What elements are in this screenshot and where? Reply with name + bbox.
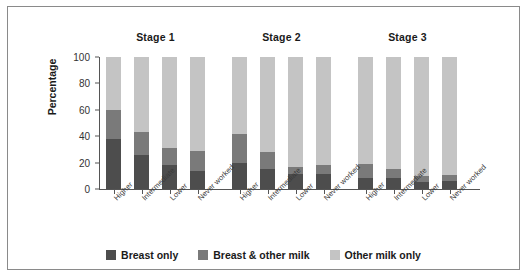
bar-segment-other-milk-only [162,57,177,148]
bar[interactable] [386,57,401,189]
bar-segment-breast-only [106,139,121,189]
bar-segment-breast-and-other-milk [106,110,121,139]
legend-label: Breast & other milk [213,249,309,261]
y-tick-label: 100 [64,52,90,63]
bar-segment-breast-and-other-milk [358,164,373,179]
legend-item[interactable]: Other milk only [330,249,421,261]
bar-segment-breast-and-other-milk [260,152,275,169]
legend-label: Breast only [121,249,178,261]
bar[interactable] [260,57,275,189]
bar-segment-other-milk-only [386,57,401,169]
bar-segment-breast-and-other-milk [386,169,401,178]
legend-swatch-icon [330,250,340,260]
bar-segment-other-milk-only [358,57,373,164]
bar-segment-other-milk-only [232,57,247,134]
y-tick-label: 40 [64,131,90,142]
y-tick-label: 0 [64,184,90,195]
bar-segment-breast-and-other-milk [162,148,177,165]
group-title-stage-2: Stage 2 [262,31,301,43]
legend-label: Other milk only [345,249,421,261]
bar-segment-breast-only [316,174,331,189]
bar[interactable] [134,57,149,189]
bar-segment-other-milk-only [134,57,149,132]
bar-segment-other-milk-only [316,57,331,165]
legend-swatch-icon [198,250,208,260]
bar-segment-other-milk-only [442,57,457,174]
bar[interactable] [442,57,457,189]
bar-segment-breast-and-other-milk [316,165,331,174]
y-tick-label: 20 [64,157,90,168]
bar-segment-breast-and-other-milk [190,151,205,171]
bar-segment-breast-only [190,171,205,189]
bar-segment-breast-and-other-milk [442,175,457,182]
legend-item[interactable]: Breast only [106,249,178,261]
bar[interactable] [106,57,121,189]
bar-segment-breast-only [134,155,149,189]
bar-segment-breast-and-other-milk [134,132,149,154]
legend-item[interactable]: Breast & other milk [198,249,309,261]
legend-swatch-icon [106,250,116,260]
chart-figure: Percentage 020406080100 Stage 1Stage 2St… [7,6,520,270]
y-tick-label: 60 [64,104,90,115]
bar-segment-other-milk-only [414,57,429,176]
y-axis-title: Percentage [46,27,58,147]
group-title-stage-3: Stage 3 [388,31,427,43]
bar-segment-breast-only [260,169,275,189]
y-axis-line [99,57,100,190]
bar-segment-other-milk-only [190,57,205,151]
bar[interactable] [190,57,205,189]
bar[interactable] [316,57,331,189]
bar-segment-other-milk-only [260,57,275,152]
bar-segment-other-milk-only [106,57,121,110]
group-title-stage-1: Stage 1 [136,31,175,43]
y-tick-label: 80 [64,78,90,89]
chart-legend: Breast onlyBreast & other milkOther milk… [8,249,519,261]
bar-segment-other-milk-only [288,57,303,167]
bar-segment-breast-and-other-milk [232,134,247,163]
